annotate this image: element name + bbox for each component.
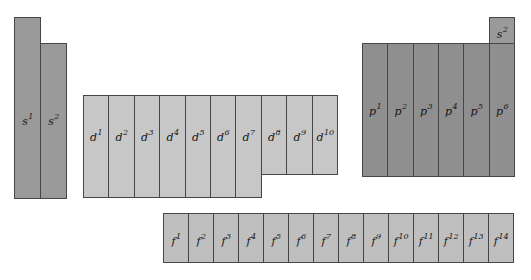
d-block-cell-d10: d10 — [312, 95, 338, 175]
orbital-label: p4 — [439, 100, 463, 120]
orbital-label: f12 — [439, 230, 463, 250]
orbital-letter: p — [394, 105, 401, 118]
orbital-label: p2 — [388, 100, 413, 120]
orbital-label: f3 — [214, 230, 238, 250]
orbital-label: p6 — [490, 100, 514, 120]
orbital-label: f6 — [289, 230, 313, 250]
orbital-label: p5 — [464, 100, 489, 120]
p-block-cell-p5: p5 — [463, 43, 490, 177]
electron-count: 3 — [226, 232, 231, 241]
orbital-label: s2 — [41, 110, 66, 130]
d-block-cell-d1: d1 — [83, 95, 109, 198]
orbital-letter: p — [496, 105, 503, 118]
orbital-label: f9 — [364, 230, 388, 250]
f-block-cell-f5: f5 — [263, 213, 289, 263]
electron-count: 3 — [148, 128, 153, 137]
orbital-letter: d — [242, 131, 249, 144]
electron-count: 12 — [448, 232, 458, 241]
orbital-letter: d — [192, 131, 199, 144]
orbital-label: d9 — [287, 126, 312, 146]
f-block-cell-f10: f10 — [388, 213, 414, 263]
orbital-letter: d — [293, 131, 300, 144]
orbital-label: f14 — [489, 230, 513, 250]
f-block-cell-f3: f3 — [213, 213, 239, 263]
orbital-letter: s — [48, 115, 54, 128]
d-block-cell-d9: d9 — [286, 95, 313, 175]
electron-count: 8 — [275, 128, 280, 137]
orbital-letter: p — [470, 105, 477, 118]
f-block-cell-f6: f6 — [288, 213, 314, 263]
p-block-cell-p1: p1 — [362, 43, 388, 177]
orbital-letter: d — [166, 131, 173, 144]
orbital-label: p1 — [363, 100, 387, 120]
electron-count: 2 — [201, 232, 206, 241]
orbital-label: d1 — [84, 126, 108, 146]
orbital-label: d6 — [211, 126, 235, 146]
orbital-label: p3 — [414, 100, 438, 120]
orbital-label: f2 — [189, 230, 213, 250]
orbital-label: d2 — [109, 126, 134, 146]
electron-count: 8 — [351, 232, 356, 241]
orbital-label: f4 — [239, 230, 263, 250]
electron-count: 2 — [54, 112, 59, 121]
electron-count: 7 — [250, 128, 255, 137]
orbital-letter: f — [296, 235, 300, 248]
electron-count: 1 — [97, 128, 102, 137]
orbital-label: d4 — [160, 126, 185, 146]
d-block-cell-d6: d6 — [210, 95, 236, 198]
orbital-label: f11 — [414, 230, 438, 250]
orbital-label: d7 — [236, 126, 261, 146]
f-block-cell-f7: f7 — [313, 213, 339, 263]
orbital-label: d3 — [135, 126, 159, 146]
d-block-cell-d7: d7 — [235, 95, 262, 198]
orbital-letter: s — [497, 28, 503, 41]
electron-count: 6 — [224, 128, 229, 137]
electron-count: 10 — [324, 128, 334, 137]
orbital-letter: d — [90, 131, 97, 144]
orbital-letter: p — [369, 105, 376, 118]
orbital-letter: p — [420, 105, 427, 118]
electron-count: 6 — [503, 102, 508, 111]
orbital-letter: f — [196, 235, 200, 248]
electron-count: 7 — [326, 232, 331, 241]
p-block-cell-p6: p6 — [489, 43, 515, 177]
orbital-letter: d — [268, 131, 275, 144]
d-block-cell-d2: d2 — [108, 95, 135, 198]
orbital-letter: f — [346, 235, 350, 248]
p-block-cell-p4: p4 — [438, 43, 464, 177]
electron-count: 2 — [503, 25, 508, 34]
electron-count: 1 — [28, 112, 33, 121]
electron-count: 6 — [301, 232, 306, 241]
helium-cell-cell-s2: s2 — [489, 17, 515, 44]
f-block-cell-f8: f8 — [338, 213, 364, 263]
electron-count: 5 — [276, 232, 281, 241]
orbital-label: d10 — [313, 126, 337, 146]
orbital-label: s1 — [15, 110, 40, 130]
s-block-cell-s2: s2 — [40, 43, 67, 199]
d-block-cell-d4: d4 — [159, 95, 186, 198]
f-block-cell-f2: f2 — [188, 213, 214, 263]
orbital-label: f1 — [164, 230, 188, 250]
p-block-cell-p3: p3 — [413, 43, 439, 177]
orbital-label: f13 — [464, 230, 488, 250]
orbital-letter: d — [141, 131, 148, 144]
electron-count: 2 — [402, 102, 407, 111]
electron-count: 5 — [199, 128, 204, 137]
electron-count: 4 — [174, 128, 179, 137]
orbital-label: d5 — [186, 126, 210, 146]
d-block-cell-d8: d8 — [261, 95, 287, 175]
orbital-letter: s — [22, 115, 28, 128]
orbital-label: f5 — [264, 230, 288, 250]
orbital-label: s2 — [490, 23, 514, 43]
orbital-letter: f — [371, 235, 375, 248]
electron-count: 9 — [376, 232, 381, 241]
p-block-cell-p2: p2 — [387, 43, 414, 177]
d-block-cell-d3: d3 — [134, 95, 160, 198]
orbital-letter: f — [321, 235, 325, 248]
orbital-label: f8 — [339, 230, 363, 250]
electron-count: 5 — [478, 102, 483, 111]
electron-count: 4 — [452, 102, 457, 111]
electron-count: 9 — [301, 128, 306, 137]
orbital-label: f7 — [314, 230, 338, 250]
f-block-cell-f11: f11 — [413, 213, 439, 263]
